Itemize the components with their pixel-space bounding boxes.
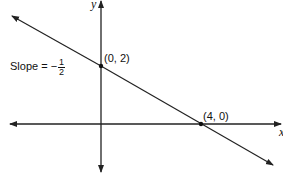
point-0-2: [99, 64, 103, 68]
slope-prefix: Slope = −: [10, 60, 57, 72]
point-label-0-2: (0, 2): [104, 52, 130, 64]
point-label-4-0: (4, 0): [203, 110, 229, 122]
coordinate-plane: [0, 0, 283, 179]
slope-label: Slope = −12: [10, 58, 65, 77]
slope-denominator: 2: [58, 68, 65, 77]
x-axis-label: x: [279, 125, 283, 140]
graph-line-right: [101, 66, 273, 165]
point-4-0: [199, 122, 203, 126]
y-axis-label: y: [91, 0, 96, 12]
slope-fraction: 12: [58, 58, 65, 77]
